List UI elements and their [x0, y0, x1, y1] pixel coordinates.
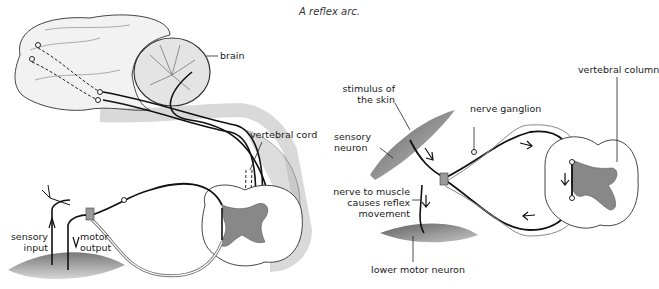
label-sensory-neuron: sensory neuron [334, 131, 371, 153]
label-stimulus-line1: stimulus of [330, 83, 395, 94]
label-nerve-ganglion: nerve ganglion [470, 103, 541, 114]
label-sensory-neuron-line1: sensory [334, 131, 371, 142]
label-brain: brain [220, 50, 244, 61]
label-lower-motor-neuron: lower motor neuron [371, 264, 465, 275]
label-motor-output-line2: output [80, 242, 111, 253]
label-motor-output: motor output [80, 231, 111, 253]
label-stimulus-of-the-skin: stimulus of the skin [330, 83, 395, 105]
label-vertebral-column: vertebral column [578, 64, 659, 75]
label-motor-output-line1: motor [80, 231, 111, 242]
label-stimulus-line2: the skin [330, 94, 395, 105]
label-nerve-to-muscle-line3: movement [330, 208, 410, 219]
skin-surface-left [8, 252, 125, 279]
label-sensory-input-line2: input [10, 242, 48, 253]
label-sensory-input-line1: sensory [10, 231, 48, 242]
label-sensory-neuron-line2: neuron [334, 142, 371, 153]
label-nerve-to-muscle-line2: causes reflex [330, 197, 410, 208]
label-nerve-to-muscle: nerve to muscle causes reflex movement [330, 186, 410, 219]
label-nerve-to-muscle-line1: nerve to muscle [330, 186, 410, 197]
label-vertebral-cord: vertebral cord [250, 129, 317, 140]
label-sensory-input: sensory input [10, 231, 48, 253]
